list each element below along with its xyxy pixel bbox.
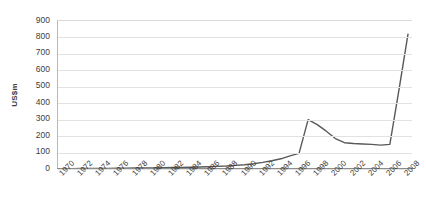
line-chart: US$m 9008007006005004003002001000 197019… [0,0,426,213]
x-axis-tick-label: 1974 [94,159,112,177]
x-axis-tick-label: 1976 [112,159,130,177]
x-axis-tick-label: 2008 [403,159,421,177]
x-axis-tick-label: 1986 [203,159,221,177]
x-axis-tick-label: 1996 [294,159,312,177]
x-axis-tick-label: 1988 [221,159,239,177]
x-axis-tick-label: 1982 [167,159,185,177]
x-axis-tick-label: 2004 [367,159,385,177]
x-axis-tick-label: 1984 [185,159,203,177]
x-axis-tick-label: 1994 [276,159,294,177]
x-axis-tick-label: 1992 [258,159,276,177]
x-axis-tick-label: 1990 [240,159,258,177]
x-axis-tick-label: 1972 [76,159,94,177]
x-axis-tick-label: 2006 [385,159,403,177]
x-axis-tick-label: 1998 [312,159,330,177]
x-axis-tick-label: 2002 [349,159,367,177]
x-axis-tick-label: 2000 [330,159,348,177]
x-axis-tick-label: 1970 [58,159,76,177]
x-axis-tick-labels: 1970197219741976197819801982198419861988… [0,0,426,213]
x-axis-tick-label: 1980 [149,159,167,177]
x-axis-tick-label: 1978 [131,159,149,177]
